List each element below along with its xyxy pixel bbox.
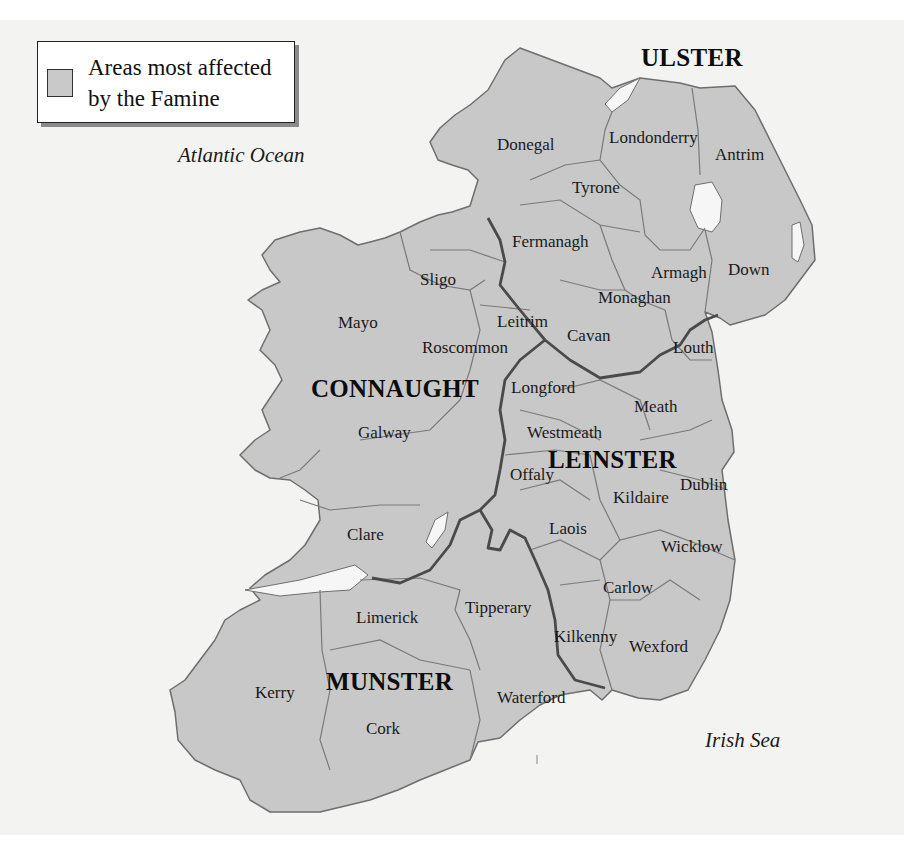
county-label-armagh: Armagh <box>651 263 707 283</box>
county-label-down: Down <box>728 260 770 280</box>
legend-label: Areas most affected by the Famine <box>88 52 272 114</box>
county-label-clare: Clare <box>347 525 384 545</box>
county-label-dublin: Dublin <box>680 475 727 495</box>
county-label-laois: Laois <box>549 519 587 539</box>
legend-swatch <box>47 69 73 97</box>
county-label-waterford: Waterford <box>497 688 565 708</box>
county-label-antrim: Antrim <box>715 145 764 165</box>
province-label-connaught: CONNAUGHT <box>311 375 479 403</box>
province-label-ulster: ULSTER <box>641 44 743 72</box>
county-label-monaghan: Monaghan <box>598 288 671 308</box>
county-label-wexford: Wexford <box>629 637 688 657</box>
county-label-kildaire: Kildaire <box>613 488 669 508</box>
county-label-tipperary: Tipperary <box>465 598 531 618</box>
county-label-leitrim: Leitrim <box>497 312 548 332</box>
county-label-kerry: Kerry <box>255 683 295 703</box>
county-label-londonderry: Londonderry <box>609 128 698 148</box>
county-label-louth: Louth <box>673 338 714 358</box>
province-label-leinster: LEINSTER <box>548 446 677 474</box>
county-label-cavan: Cavan <box>567 326 610 346</box>
county-label-kilkenny: Kilkenny <box>554 627 617 647</box>
province-label-munster: MUNSTER <box>326 668 453 696</box>
county-label-cork: Cork <box>366 719 400 739</box>
atlantic-ocean-label: Atlantic Ocean <box>178 143 305 168</box>
county-label-westmeath: Westmeath <box>527 423 602 443</box>
county-label-donegal: Donegal <box>497 135 555 155</box>
county-label-longford: Longford <box>511 378 575 398</box>
ireland-map <box>0 0 904 851</box>
irish-sea-label: Irish Sea <box>705 728 780 753</box>
county-label-roscommon: Roscommon <box>422 338 508 358</box>
county-label-meath: Meath <box>634 397 677 417</box>
map-legend: Areas most affected by the Famine <box>37 41 295 123</box>
county-label-limerick: Limerick <box>356 608 418 628</box>
county-label-offaly: Offaly <box>510 465 554 485</box>
county-label-wicklow: Wicklow <box>661 537 723 557</box>
county-label-carlow: Carlow <box>603 578 653 598</box>
county-label-galway: Galway <box>358 423 411 443</box>
county-label-sligo: Sligo <box>420 270 456 290</box>
county-label-tyrone: Tyrone <box>572 178 620 198</box>
county-label-mayo: Mayo <box>338 313 378 333</box>
county-label-fermanagh: Fermanagh <box>512 232 588 252</box>
